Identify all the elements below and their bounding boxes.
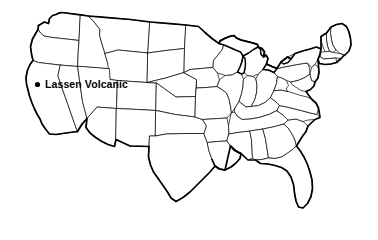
us-outline-map-figure: Lassen Volcanic [0, 0, 378, 240]
state-arkansas [203, 118, 230, 143]
lassen-volcanic-label: Lassen Volcanic [45, 79, 128, 90]
state-north-dakota [148, 22, 186, 53]
map-svg-canvas [0, 0, 378, 240]
state-texas [149, 134, 216, 202]
state-boundaries-group [26, 13, 351, 209]
lassen-volcanic-marker-dot [35, 82, 40, 87]
